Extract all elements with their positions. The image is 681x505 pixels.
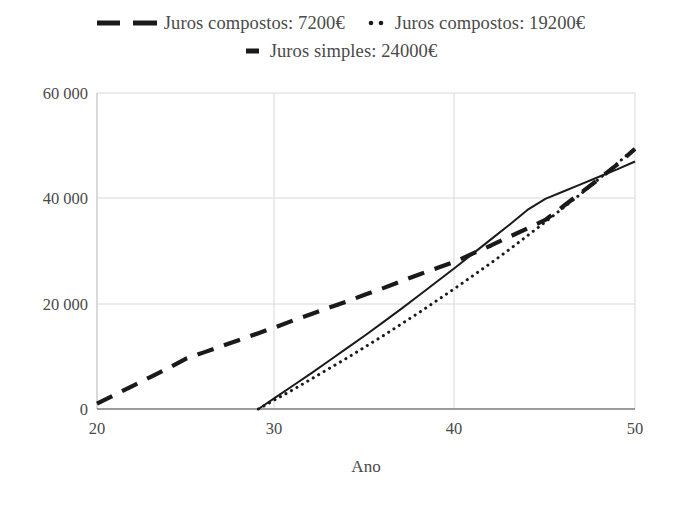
x-tick-label: 20 <box>89 419 106 438</box>
x-axis-tick-labels: 20 30 40 50 <box>89 419 644 438</box>
chart-container: Juros compostos: 7200€ Juros compostos: … <box>0 0 681 505</box>
y-tick-label: 20 000 <box>43 295 88 314</box>
x-tick-label: 50 <box>627 419 644 438</box>
horizontal-gridlines <box>97 93 635 304</box>
series-line-0 <box>97 149 635 404</box>
y-tick-label: 40 000 <box>43 189 88 208</box>
y-axis-tick-labels: 60 000 40 000 20 000 0 <box>43 84 88 419</box>
y-tick-label: 0 <box>80 400 88 419</box>
x-tick-label: 40 <box>446 419 463 438</box>
x-axis-title: Ano <box>351 457 380 476</box>
x-tick-label: 30 <box>266 419 283 438</box>
chart-svg: 60 000 40 000 20 000 0 20 30 40 50 Ano <box>0 0 681 505</box>
series-line-2 <box>258 161 635 409</box>
plot-area: 60 000 40 000 20 000 0 20 30 40 50 Ano <box>0 0 681 505</box>
data-series-layer <box>97 148 635 409</box>
y-tick-label: 60 000 <box>43 84 88 103</box>
